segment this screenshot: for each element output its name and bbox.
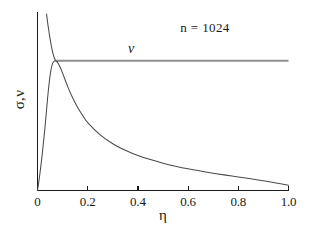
series-label-nu: ν [128,41,134,57]
chart-figure: 00.20.40.60.81.0 η σ,ν n = 1024 ν [0,0,309,234]
data-series-group [38,14,289,191]
x-tick-label-4: 0.8 [230,194,246,210]
x-tick-label-3: 0.6 [180,194,196,210]
x-tick-label-5: 1.0 [281,194,297,210]
x-tick-label-1: 0.2 [80,194,96,210]
x-axis-title: η [159,207,167,224]
sigma-descending-branch [47,14,58,62]
sigma-curve [38,61,289,191]
annotation-sample-size: n = 1024 [180,20,230,36]
plot-canvas [0,0,309,234]
x-tick-label-0: 0 [34,194,40,210]
y-axis-title: σ,ν [11,89,28,111]
x-tick-label-2: 0.4 [130,194,146,210]
